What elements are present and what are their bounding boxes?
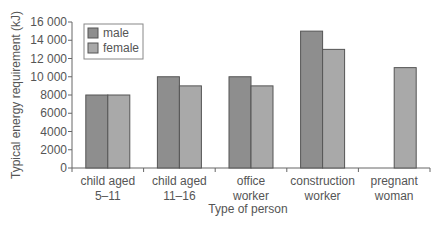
y-axis: 0200040006000800010 00012 00014 00016 00…: [30, 15, 72, 175]
x-tick-label: child aged: [152, 174, 207, 188]
bar-male: [86, 95, 108, 168]
legend-swatch-female: [88, 43, 98, 53]
y-tick-label: 0: [60, 161, 67, 175]
x-tick-label: worker: [304, 189, 341, 203]
legend-label-male: male: [103, 26, 129, 40]
x-tick-label: office: [237, 174, 266, 188]
bar-female: [108, 95, 130, 168]
legend-swatch-male: [88, 28, 98, 38]
y-tick-label: 12 000: [30, 52, 67, 66]
y-tick-label: 8000: [40, 88, 67, 102]
x-tick-label: 11–16: [163, 189, 196, 203]
bar-female: [179, 86, 201, 168]
x-axis: child aged5–11child aged11–16officeworke…: [72, 168, 430, 203]
x-tick-label: child aged: [80, 174, 135, 188]
x-tick-label: 5–11: [95, 189, 121, 203]
bar-female: [251, 86, 273, 168]
legend: malefemale: [84, 24, 143, 59]
bar-male: [301, 31, 323, 168]
bar-male: [157, 77, 179, 168]
y-tick-label: 2000: [40, 143, 67, 157]
x-tick-label: woman: [374, 189, 414, 203]
legend-label-female: female: [103, 41, 139, 55]
bar-female: [323, 49, 345, 168]
y-tick-label: 4000: [40, 125, 67, 139]
x-tick-label: worker: [232, 189, 269, 203]
y-tick-label: 6000: [40, 106, 67, 120]
bar-male: [229, 77, 251, 168]
y-axis-label: Typical energy requirement (kJ): [9, 11, 23, 179]
x-tick-label: construction: [290, 174, 355, 188]
y-tick-label: 16 000: [30, 15, 67, 29]
bar-chart: 0200040006000800010 00012 00014 00016 00…: [0, 0, 439, 227]
y-tick-label: 14 000: [30, 33, 67, 47]
y-tick-label: 10 000: [30, 70, 67, 84]
x-tick-label: pregnant: [371, 174, 419, 188]
x-axis-label: Type of person: [208, 202, 287, 216]
bar-female: [394, 68, 416, 168]
